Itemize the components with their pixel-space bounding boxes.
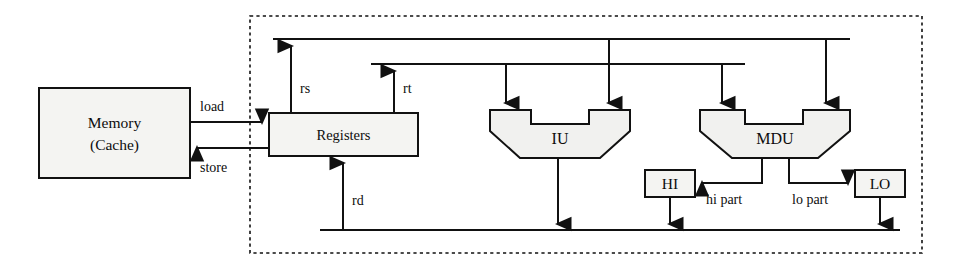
memory-label-line1: Memory [88,114,142,131]
hi-label: HI [662,175,678,192]
lo-part-wire [789,158,848,183]
store-label: store [200,160,227,175]
mdu-label: MDU [756,130,794,147]
hi-part-wire [702,158,762,183]
rt-label: rt [403,81,412,96]
registers-label: Registers [317,127,371,143]
hi-part-label: hi part [706,192,742,207]
memory-label-line2: (Cache) [90,136,139,154]
lo-label: LO [870,175,891,192]
architecture-svg-canvas: Memory (Cache) load store Registers rs r… [0,0,963,265]
iu-label: IU [552,130,569,147]
processor-architecture-diagram: Memory (Cache) load store Registers rs r… [0,0,963,265]
lo-part-label: lo part [792,192,828,207]
memory-cache-block [39,88,190,178]
rs-label: rs [300,81,310,96]
load-label: load [200,99,224,114]
rd-label: rd [352,193,364,208]
